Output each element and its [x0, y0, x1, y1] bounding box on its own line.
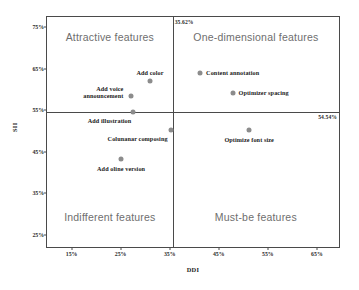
data-point-marker[interactable] — [198, 70, 203, 75]
y-axis-tick-label: 35% — [32, 190, 44, 196]
x-axis-tick-label: 35% — [164, 251, 176, 257]
x-axis-tick-label: 65% — [311, 251, 323, 257]
y-axis-tick-label: 45% — [32, 149, 44, 155]
data-point-label: Add color — [136, 69, 163, 76]
y-axis-tick-mark — [44, 193, 47, 194]
data-point-label: Optimizer spacing — [239, 89, 289, 96]
y-axis-tick-mark — [44, 110, 47, 111]
kano-quadrant-chart: 75%65%55%45%35%25%15%25%35%45%55%65%35.6… — [0, 0, 359, 290]
horizontal-divider-value: 54.54% — [318, 114, 337, 120]
y-axis-tick-mark — [44, 151, 47, 152]
x-axis-title: DDI — [46, 266, 340, 273]
data-point-marker[interactable] — [230, 90, 235, 95]
data-point-label: Add oline version — [97, 165, 145, 172]
x-axis-tick-mark — [218, 247, 219, 250]
vertical-divider-line — [173, 17, 174, 247]
vertical-divider-value: 35.62% — [175, 19, 194, 25]
y-axis-tick-label: 25% — [32, 232, 44, 238]
plot-area: 75%65%55%45%35%25%15%25%35%45%55%65%35.6… — [46, 16, 340, 248]
data-point-marker[interactable] — [247, 127, 252, 132]
data-point-marker[interactable] — [129, 93, 134, 98]
y-axis-tick-label: 75% — [32, 24, 44, 30]
data-point-label: Content annotation — [206, 69, 259, 76]
x-axis-tick-label: 55% — [262, 251, 274, 257]
y-axis-tick-label: 55% — [32, 107, 44, 113]
x-axis-tick-label: 15% — [66, 251, 78, 257]
quadrant-label-attractive: Attractive features — [66, 31, 154, 43]
x-axis-tick-mark — [120, 247, 121, 250]
data-point-marker[interactable] — [168, 127, 173, 132]
x-axis-tick-mark — [316, 247, 317, 250]
y-axis-tick-mark — [44, 68, 47, 69]
x-axis-tick-mark — [71, 247, 72, 250]
data-point-marker[interactable] — [119, 157, 124, 162]
quadrant-label-must-be: Must-be features — [215, 211, 297, 223]
data-point-label: Colunanar composing — [108, 135, 168, 142]
data-point-label: Add illustration — [88, 117, 132, 124]
data-point-marker[interactable] — [148, 79, 153, 84]
data-point-marker[interactable] — [131, 110, 136, 115]
x-axis-tick-mark — [169, 247, 170, 250]
x-axis-tick-mark — [267, 247, 268, 250]
quadrant-label-indifferent: Indifferent features — [64, 211, 155, 223]
y-axis-tick-label: 65% — [32, 66, 44, 72]
data-point-label: announcement — [83, 92, 123, 99]
y-axis-tick-mark — [44, 234, 47, 235]
x-axis-tick-label: 25% — [115, 251, 127, 257]
quadrant-label-one-dimensional: One-dimensional features — [193, 31, 318, 43]
horizontal-divider-line — [47, 112, 339, 113]
data-point-label: Add voice — [96, 85, 123, 92]
y-axis-tick-mark — [44, 27, 47, 28]
x-axis-tick-label: 45% — [213, 251, 225, 257]
data-point-label: Optimize font size — [224, 136, 274, 143]
y-axis-title: SII — [11, 123, 18, 132]
